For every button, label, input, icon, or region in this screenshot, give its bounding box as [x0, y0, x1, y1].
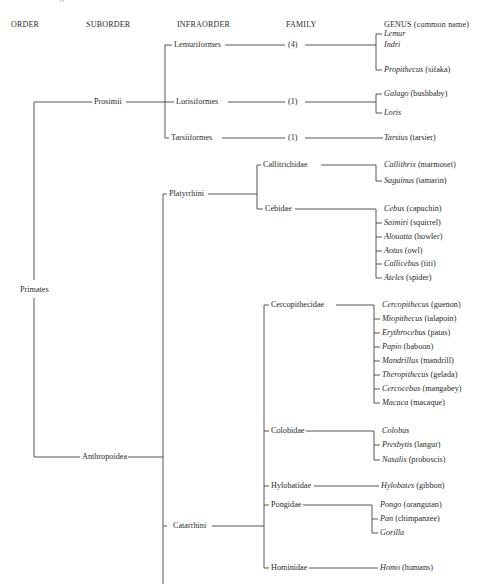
genus-erythrocebus: Erythrocebus (patas)	[381, 328, 451, 338]
genus-galago: Galago (bushbaby)	[383, 89, 448, 99]
family-hominidae: Hominidae	[270, 563, 308, 573]
genus-macaca: Macaca (macaque)	[381, 398, 446, 408]
genus-hylobates: Hylobates (gibbon)	[380, 481, 445, 491]
genus-pan: Pan (chimpanzee)	[379, 514, 441, 524]
genus-colobus: Colobus	[381, 426, 410, 436]
genus-cebus: Cebus (capuchin)	[383, 204, 443, 214]
family-hylobatidae: Hylobatidae	[270, 481, 312, 491]
infraorder-platyrrhini: Platyrrhini	[168, 189, 205, 199]
genus-mandrillus: Mandrillus (mandrill)	[381, 356, 455, 366]
genus-papio: Papio (baboon)	[381, 342, 434, 352]
genus-nasalis: Nasalis (proboscis)	[381, 455, 446, 465]
infraorder-lorisiformes: Lorisiformes	[175, 97, 219, 107]
family-cercopithecidae: Cercopithecidae	[270, 300, 325, 310]
genus-propithecus: Propithecus (sifaka)	[383, 65, 451, 75]
genus-loris: Loris	[383, 108, 402, 118]
family-cebidae: Cebidae	[264, 204, 293, 214]
genus-saimiri: Saimiri (squirrel)	[383, 218, 442, 228]
genus-saguinus: Saguinus (tamarin)	[383, 176, 448, 186]
family-colobidae: Colobidae	[270, 426, 306, 436]
genus-tarsius: Tarsius (tarsier)	[383, 133, 437, 143]
genus-callithrix: Callithrix (marmoset)	[383, 160, 457, 170]
genus-indri: Indri	[383, 40, 401, 50]
order-primates: Primates	[19, 285, 50, 295]
genus-presbytis: Presbytis (langur)	[381, 440, 442, 450]
family-count-tarsiiformes: (1)	[287, 133, 299, 143]
suborder-anthropoidea: Anthropoidea	[81, 452, 128, 462]
genus-cercocebus: Cercocebus (mangabey)	[381, 384, 463, 394]
infraorder-catarrhini: Catarrhini	[172, 521, 207, 531]
genus-theropithecus: Theropithecus (gelada)	[381, 370, 458, 380]
genus-alouatta: Alouatta (howler)	[383, 232, 443, 242]
tree-lines	[0, 0, 493, 584]
infraorder-lemuriformes: Lemuriformes	[173, 40, 222, 50]
suborder-prosimii: Prosimii	[93, 97, 123, 107]
genus-pongo: Pongo (orangutan)	[379, 500, 443, 510]
family-count-lorisiformes: (1)	[287, 97, 299, 107]
genus-ateles: Ateles (spider)	[383, 273, 433, 283]
genus-cercopithecus: Cercopithecus (guenon)	[381, 300, 462, 310]
family-callitrichidae: Callitrichidae	[262, 160, 309, 170]
genus-aotus: Aotus (owl)	[383, 246, 423, 256]
genus-lemur: Lemur	[383, 29, 406, 39]
family-count-lemuriformes: (4)	[287, 40, 299, 50]
infraorder-tarsiiformes: Tarsiiformes	[170, 133, 213, 143]
genus-homo: Homo (humans)	[379, 563, 434, 573]
genus-miopithecus: Miopithecus (talapoin)	[381, 314, 457, 324]
family-pongidae: Pongidae	[270, 500, 302, 510]
genus-callicebus: Callicebus (titi)	[383, 259, 437, 269]
genus-gorilla: Gorilla	[379, 528, 405, 538]
